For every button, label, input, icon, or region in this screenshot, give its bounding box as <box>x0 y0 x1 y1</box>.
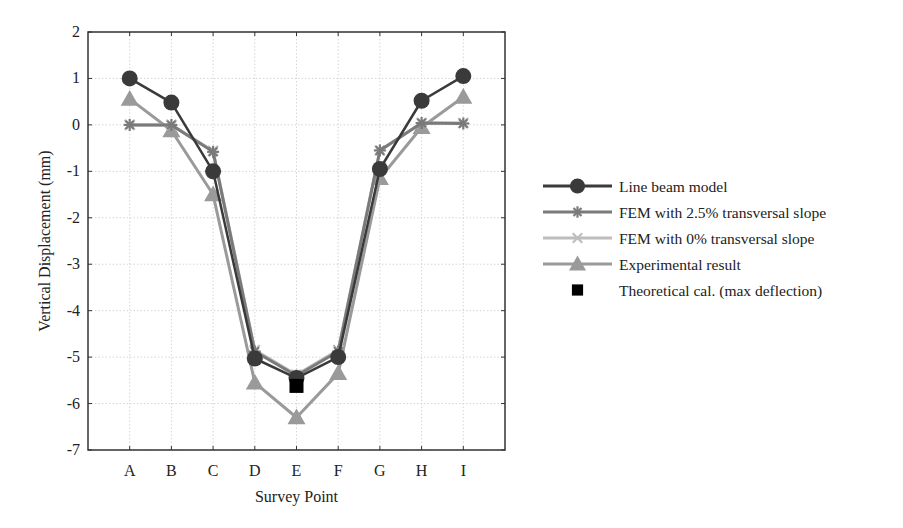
x-tick-label: I <box>461 462 466 479</box>
y-tick-label: -4 <box>67 302 80 319</box>
y-tick-label: 0 <box>72 116 80 133</box>
legend-label: Line beam model <box>619 178 727 195</box>
legend: Line beam modelFEM with 2.5% transversal… <box>543 178 826 300</box>
legend-label: Theoretical cal. (max deflection) <box>619 282 822 300</box>
y-axis-label: Vertical Displacement (mm) <box>36 150 54 331</box>
circle-marker <box>247 351 263 367</box>
circle-marker <box>205 163 221 179</box>
triangle-marker <box>454 88 472 104</box>
line-chart: 210-1-2-3-4-5-6-7ABCDEFGHI Survey Point … <box>0 0 903 528</box>
triangle-marker <box>246 374 264 390</box>
legend-label: Experimental result <box>619 256 741 273</box>
y-tick-label: -5 <box>67 348 80 365</box>
legend-label: FEM with 2.5% transversal slope <box>619 204 826 221</box>
x-tick-label: F <box>334 462 343 479</box>
x-tick-label: A <box>124 462 136 479</box>
series-theoretical-cal-max-deflection- <box>290 379 304 393</box>
circle-marker <box>122 70 138 86</box>
x-tick-label: E <box>292 462 302 479</box>
chart: 210-1-2-3-4-5-6-7ABCDEFGHI Survey Point … <box>0 0 903 528</box>
x-tick-label: H <box>416 462 428 479</box>
y-tick-label: -7 <box>67 441 80 458</box>
series-line-beam-model <box>122 68 472 386</box>
square-marker <box>290 379 304 393</box>
legend-item: Theoretical cal. (max deflection) <box>572 282 822 300</box>
triangle-marker <box>121 90 139 106</box>
legend-label: FEM with 0% transversal slope <box>619 230 815 247</box>
y-tick-label: -6 <box>67 395 80 412</box>
x-tick-label: B <box>166 462 177 479</box>
series-line <box>130 76 464 378</box>
x-tick-label: G <box>374 462 386 479</box>
triangle-marker <box>329 364 347 380</box>
y-tick-label: -1 <box>67 162 80 179</box>
asterisk-marker <box>207 146 219 158</box>
circle-marker <box>330 349 346 365</box>
asterisk-marker <box>572 206 583 217</box>
circle-marker <box>455 68 471 84</box>
legend-item: FEM with 2.5% transversal slope <box>543 204 826 221</box>
legend-item: Line beam model <box>543 178 727 195</box>
circle-marker <box>570 178 585 193</box>
y-tick-label: -3 <box>67 255 80 272</box>
x-tick-label: D <box>249 462 261 479</box>
asterisk-marker <box>124 119 136 131</box>
y-tick-label: 1 <box>72 69 80 86</box>
asterisk-marker <box>165 119 177 131</box>
y-tick-label: 2 <box>72 23 80 40</box>
legend-item: FEM with 0% transversal slope <box>543 230 815 247</box>
legend-item: Experimental result <box>543 255 741 272</box>
circle-marker <box>163 95 179 111</box>
circle-marker <box>414 93 430 109</box>
x-axis-label: Survey Point <box>255 488 339 506</box>
y-tick-label: -2 <box>67 209 80 226</box>
square-marker <box>572 284 583 295</box>
circle-marker <box>372 161 388 177</box>
x-tick-label: C <box>208 462 219 479</box>
